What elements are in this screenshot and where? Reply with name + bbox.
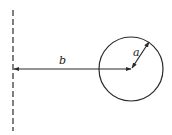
distance-label-b: b	[59, 55, 66, 66]
diagram-svg	[0, 0, 172, 135]
radius-label-a: a	[133, 47, 140, 58]
